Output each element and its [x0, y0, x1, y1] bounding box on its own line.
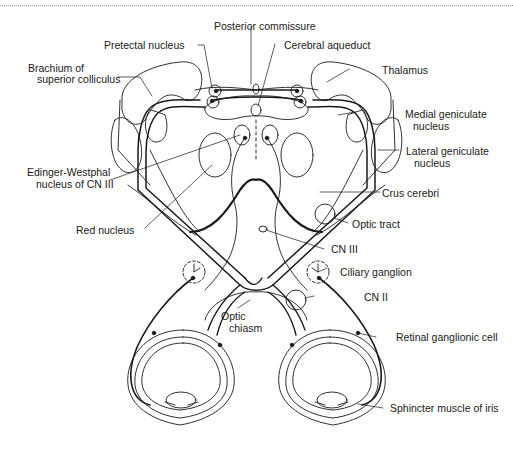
label-retinal-ganglionic-cell: Retinal ganglionic cell	[396, 331, 498, 343]
pretectal-nucleus-left	[207, 85, 221, 108]
label-edinger-westphal-line2: nucleus of CN III	[36, 178, 114, 190]
label-posterior-commissure: Posterior commissure	[214, 20, 316, 32]
label-edinger-westphal-line1: Edinger-Westphal	[27, 166, 110, 178]
label-lateral-geniculate-line1: Lateral geniculate	[406, 145, 489, 157]
optic-tract-right	[268, 100, 375, 285]
label-ciliary-ganglion: Ciliary ganglion	[340, 266, 412, 278]
label-cn-iii: CN III	[331, 243, 358, 255]
red-nucleus-right	[281, 133, 313, 177]
label-thalamus: Thalamus	[382, 64, 428, 76]
label-lateral-geniculate-line2: nucleus	[414, 157, 450, 169]
pretectal-nucleus-right	[291, 85, 306, 108]
label-pretectal-nucleus: Pretectal nucleus	[104, 39, 185, 51]
label-crus-cerebri: Crus cerebri	[382, 187, 439, 199]
label-cn-ii: CN II	[364, 291, 388, 303]
label-optic-tract: Optic tract	[352, 218, 400, 230]
label-cerebral-aqueduct: Cerebral aqueduct	[284, 39, 370, 51]
lateral-geniculate-right	[371, 118, 401, 173]
label-sphincter-muscle: Sphincter muscle of iris	[390, 402, 499, 414]
label-optic-chiasm-line1: Optic	[221, 310, 246, 322]
label-optic-chiasm-line2: chiasm	[229, 322, 262, 334]
cerebral-aqueduct	[251, 104, 261, 116]
label-medial-geniculate-line1: Medial geniculate	[405, 108, 487, 120]
label-brachium-line2: superior colliculus	[37, 73, 120, 85]
lateral-geniculate-left	[111, 118, 141, 173]
eye-right	[279, 330, 386, 425]
label-red-nucleus: Red nucleus	[76, 224, 134, 236]
thalamus-right[interactable]	[311, 62, 391, 124]
label-medial-geniculate-line2: nucleus	[413, 120, 449, 132]
thalamus-left	[122, 62, 202, 124]
eye-left	[128, 330, 235, 425]
